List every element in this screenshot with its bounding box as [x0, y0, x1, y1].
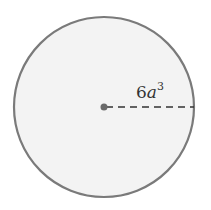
circle-diagram: 6a3 — [0, 0, 211, 210]
center-point — [101, 104, 108, 111]
